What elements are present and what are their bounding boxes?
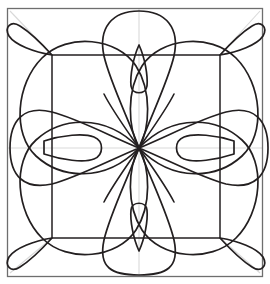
floral-pattern-drawing	[0, 0, 270, 284]
center-point	[137, 146, 140, 149]
pattern-canvas	[0, 0, 270, 284]
